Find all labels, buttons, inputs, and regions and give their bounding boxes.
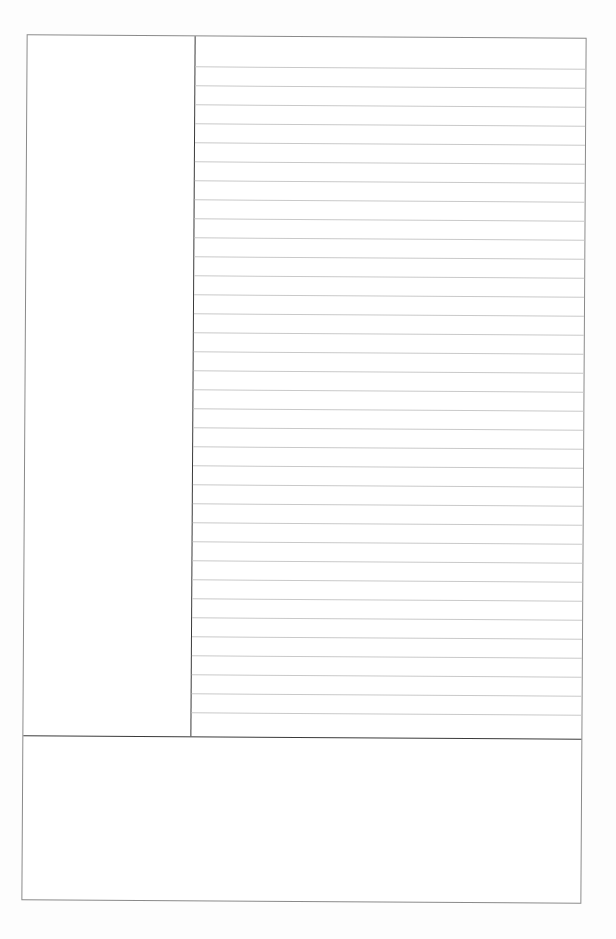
ruled-line: [193, 503, 583, 506]
ruled-line: [195, 218, 585, 221]
page-frame: [21, 34, 586, 903]
ruled-line: [195, 66, 585, 69]
ruled-line: [192, 560, 582, 563]
ruled-line: [194, 294, 584, 297]
ruled-line: [192, 674, 582, 677]
ruled-line: [193, 408, 583, 411]
summary-area[interactable]: [22, 735, 581, 902]
ruled-line: [193, 465, 583, 468]
notes-area[interactable]: [191, 36, 585, 738]
ruled-line: [192, 655, 582, 658]
ruled-line: [194, 332, 584, 335]
cornell-notes-page: [0, 0, 616, 939]
ruled-line: [193, 541, 583, 544]
ruled-line: [195, 142, 585, 145]
ruled-line: [192, 598, 582, 601]
ruled-line: [192, 579, 582, 582]
ruled-line: [193, 484, 583, 487]
ruled-line: [192, 693, 582, 696]
cue-column[interactable]: [23, 35, 195, 736]
ruled-line: [192, 712, 582, 715]
ruled-line: [193, 427, 583, 430]
ruled-line: [192, 636, 582, 639]
ruled-line: [193, 522, 583, 525]
ruled-line: [194, 237, 584, 240]
ruled-line: [194, 351, 584, 354]
ruled-line: [192, 617, 582, 620]
ruled-line: [195, 85, 585, 88]
ruled-line: [193, 446, 583, 449]
ruled-line: [194, 256, 584, 259]
ruled-line: [195, 104, 585, 107]
ruled-line: [195, 199, 585, 202]
ruled-line: [194, 313, 584, 316]
ruled-line: [194, 275, 584, 278]
ruled-line: [194, 370, 584, 373]
ruled-line: [195, 180, 585, 183]
ruled-line: [195, 123, 585, 126]
ruled-line: [193, 389, 583, 392]
ruled-line: [195, 161, 585, 164]
